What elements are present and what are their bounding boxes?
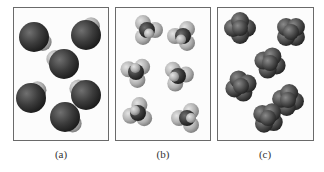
molecule-b-3	[120, 59, 150, 88]
panel-c-label: (c)	[245, 148, 285, 160]
molecule-a-2	[71, 17, 101, 50]
molecule-drawing	[0, 0, 324, 172]
molecule-c-1	[224, 12, 256, 44]
molecule-a-4	[16, 81, 46, 113]
molecule-a-1	[19, 22, 52, 52]
molecule-b-5	[122, 97, 152, 126]
molecule-a-3	[46, 49, 79, 79]
molecule-c-6	[253, 103, 282, 132]
molecule-b-1	[135, 15, 163, 45]
molecule-c-3	[254, 47, 285, 78]
panel-a-label: (a)	[41, 148, 81, 160]
molecule-b-2	[167, 21, 195, 51]
panel-b-label: (b)	[143, 148, 183, 160]
molecule-c-2	[277, 18, 305, 46]
molecule-c-4	[225, 70, 256, 101]
molecule-b-6	[171, 103, 199, 133]
molecule-b-4	[165, 62, 194, 92]
